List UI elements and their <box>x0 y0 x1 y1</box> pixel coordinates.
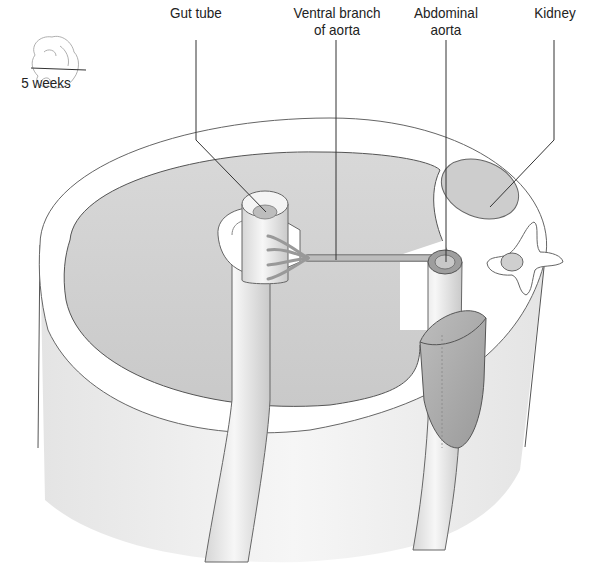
label-ventral-branch-line2: of aorta <box>277 21 398 38</box>
label-abdominal-aorta-line1: Abdominal <box>407 4 484 21</box>
label-kidney: Kidney <box>524 4 587 21</box>
gut-lumen <box>253 205 277 219</box>
notochord <box>501 253 523 271</box>
label-abdominal-aorta: Abdominal aorta <box>407 4 484 38</box>
label-gut-tube-text: Gut tube <box>155 4 238 21</box>
label-ventral-branch-of-aorta: Ventral branch of aorta <box>277 4 398 38</box>
stage-label: 5 weeks <box>12 74 80 91</box>
label-ventral-branch-line1: Ventral branch <box>277 4 398 21</box>
label-kidney-text: Kidney <box>524 4 587 21</box>
label-abdominal-aorta-line2: aorta <box>407 21 484 38</box>
embryo-cross-section-diagram <box>0 0 596 569</box>
label-gut-tube: Gut tube <box>155 4 238 21</box>
